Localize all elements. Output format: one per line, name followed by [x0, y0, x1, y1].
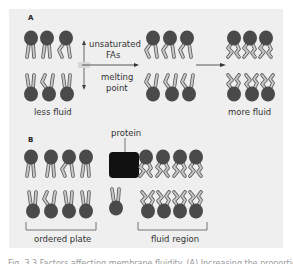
more-fluid-label: more fluid	[228, 107, 271, 117]
bilayer-fluid-region	[139, 150, 203, 219]
bilayer-middle	[146, 31, 196, 102]
protein-label: protein	[111, 128, 141, 138]
protein-shape	[109, 138, 139, 216]
point-label: point	[106, 83, 128, 93]
panel-a-letter: A	[28, 14, 33, 22]
panel-b-letter: B	[28, 136, 33, 144]
membrane-diagram	[0, 0, 293, 264]
fluid-region-label: fluid region	[151, 234, 199, 244]
bilayer-less-fluid	[24, 31, 74, 102]
bracket-ordered-plate	[26, 222, 96, 230]
bilayer-more-fluid	[227, 31, 275, 102]
figure-caption: Fig. 3.3 Factors affecting membrane flui…	[8, 257, 293, 264]
bilayer-ordered-plate	[24, 150, 93, 219]
fas-label: FAs	[106, 50, 120, 60]
melting-label: melting	[101, 72, 133, 82]
less-fluid-label: less fluid	[34, 107, 72, 117]
ordered-plate-label: ordered plate	[34, 234, 91, 244]
bracket-fluid-region	[138, 222, 207, 230]
unsaturated-label: unsaturated	[89, 39, 141, 49]
